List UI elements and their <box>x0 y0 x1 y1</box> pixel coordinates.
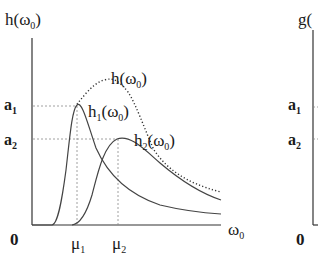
x-axis-label: ω0 <box>228 220 244 241</box>
a2-label: a2 <box>4 131 17 151</box>
right-origin-label: 0 <box>296 230 305 249</box>
h2-label: h2(ω0) <box>134 131 175 152</box>
h1-label: h1(ω0) <box>88 102 129 123</box>
left-panel: h(ω0) a1 a2 0 μ1 μ2 ω0 h(ω0) h1(ω0) h2(ω… <box>4 10 244 255</box>
right-a2-label: a2 <box>288 131 301 151</box>
mu2-label: μ2 <box>112 234 126 255</box>
right-panel: g( a1 a2 0 <box>288 10 318 249</box>
right-a1-label: a1 <box>288 96 301 116</box>
h-sum-label: h(ω0) <box>111 69 147 90</box>
right-y-axis-label: g( <box>298 10 313 29</box>
origin-label: 0 <box>10 230 19 249</box>
mu1-label: μ1 <box>71 234 85 255</box>
diagram-canvas: h(ω0) a1 a2 0 μ1 μ2 ω0 h(ω0) h1(ω0) h2(ω… <box>0 0 318 257</box>
y-axis-label: h(ω0) <box>5 10 41 31</box>
h1-curve <box>32 104 221 225</box>
a1-label: a1 <box>4 96 17 116</box>
